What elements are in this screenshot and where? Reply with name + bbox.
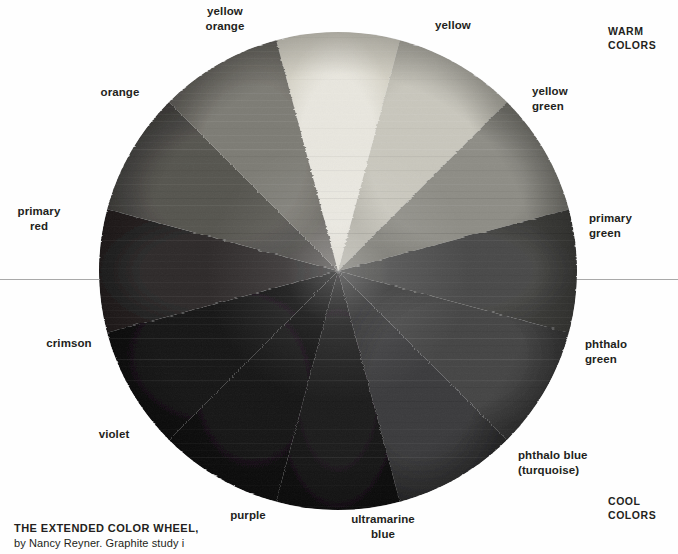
caption-line-2: by Nancy Reyner. Graphite study i (14, 536, 354, 551)
wheel-segments (98, 31, 578, 511)
wheel-label-yellow-green: yellow green (532, 84, 622, 113)
cool-colors-annotation: COOL COLORS (608, 494, 656, 522)
color-wheel (98, 31, 578, 511)
wheel-label-crimson: crimson (24, 336, 114, 351)
wheel-label-violet: violet (69, 427, 159, 442)
plate-caption: THE EXTENDED COLOR WHEEL, by Nancy Reyne… (14, 521, 354, 551)
color-wheel-plate: yellowyellow orangeorangeprimary redcrim… (0, 0, 678, 554)
wheel-label-yellow-orange: yellow orange (180, 4, 270, 33)
wheel-label-phthalo-blue-turquoise: phthalo blue (turquoise) (518, 448, 648, 477)
color-wheel-svg (98, 31, 578, 511)
wheel-label-orange: orange (75, 85, 165, 100)
caption-line-1: THE EXTENDED COLOR WHEEL, (14, 521, 354, 536)
paper-grain (98, 31, 578, 511)
wheel-label-phthalo-green: phthalo green (585, 337, 675, 366)
wheel-label-primary-red: primary red (0, 204, 84, 233)
wheel-label-yellow: yellow (408, 18, 498, 33)
wheel-label-primary-green: primary green (589, 211, 678, 240)
warm-colors-annotation: WARM COLORS (608, 24, 656, 52)
